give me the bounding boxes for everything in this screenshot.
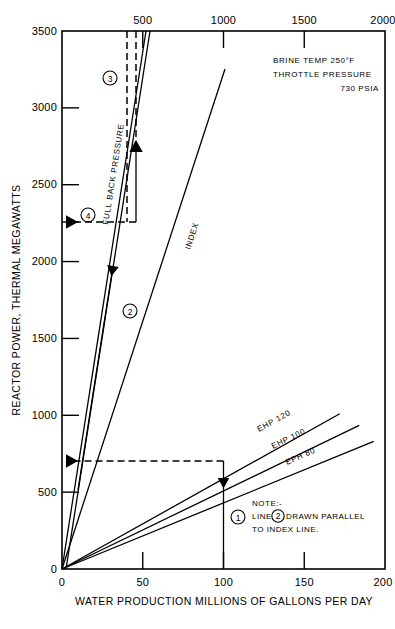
- chart-background: [0, 0, 395, 629]
- bottom-tick-label-0: 0: [59, 576, 65, 588]
- top-tick-label-1000: 1000: [211, 14, 236, 26]
- y-tick-label-2500: 2500: [32, 178, 57, 190]
- note-line-2-suffix: DRAWN PARALLEL: [286, 512, 365, 521]
- bottom-tick-label-50: 50: [136, 576, 149, 588]
- top-tick-label-1500: 1500: [292, 14, 317, 26]
- y-tick-label-3000: 3000: [32, 101, 57, 113]
- top-tick-label-2000: 2000: [370, 14, 395, 26]
- parameter-psia: 730 PSIA: [340, 84, 379, 93]
- y-tick-label-500: 500: [38, 486, 57, 498]
- nomograph-figure: 500 1000 1500 2000 0 50 100 150 200 0 50…: [0, 0, 395, 629]
- x-axis-title: WATER PRODUCTION MILLIONS OF GALLONS PER…: [75, 595, 373, 607]
- parameter-throttle-pressure: THROTTLE PRESSURE: [273, 70, 372, 79]
- bottom-tick-label-100: 100: [214, 576, 233, 588]
- marker-1-label: 1: [236, 513, 241, 523]
- top-tick-label-500: 500: [133, 14, 152, 26]
- y-tick-label-1500: 1500: [32, 332, 57, 344]
- y-tick-label-1000: 1000: [32, 409, 57, 421]
- note-marker-2-label: 2: [276, 511, 281, 521]
- note-line-2-prefix: LINE: [252, 512, 272, 521]
- note-heading: NOTE:-: [252, 499, 282, 508]
- y-axis-title: REACTOR POWER, THERMAL MEGAWATTS: [10, 185, 22, 416]
- note-line-3: TO INDEX LINE.: [252, 525, 319, 534]
- parameter-brine-temp: BRINE TEMP 250°F: [273, 56, 355, 65]
- y-tick-label-3500: 3500: [32, 25, 57, 37]
- chart-svg: 500 1000 1500 2000 0 50 100 150 200 0 50…: [0, 0, 395, 629]
- y-tick-label-2000: 2000: [32, 255, 57, 267]
- marker-4-label: 4: [86, 211, 91, 221]
- marker-3-label: 3: [108, 74, 113, 84]
- marker-2-label: 2: [128, 307, 133, 317]
- bottom-tick-label-200: 200: [374, 576, 393, 588]
- y-tick-label-0: 0: [51, 563, 57, 575]
- bottom-tick-label-150: 150: [295, 576, 314, 588]
